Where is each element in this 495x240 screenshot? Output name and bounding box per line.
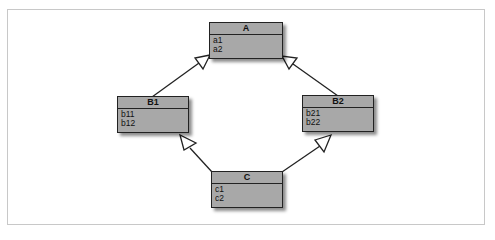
class-attributes: b11 b12 bbox=[118, 109, 188, 129]
class-b2[interactable]: B2 b21 b22 bbox=[302, 95, 374, 132]
edge-c-to-b2 bbox=[282, 146, 320, 172]
edge-c-to-b1 bbox=[190, 148, 212, 172]
class-a[interactable]: A a1 a2 bbox=[209, 22, 283, 59]
class-attributes: b21 b22 bbox=[303, 108, 373, 128]
class-attributes: c1 c2 bbox=[212, 184, 282, 204]
class-name: B1 bbox=[118, 97, 188, 109]
attribute: a1 bbox=[213, 36, 279, 45]
class-name: C bbox=[212, 172, 282, 184]
attribute: c2 bbox=[215, 194, 279, 203]
arrowhead-c-to-b2 bbox=[315, 135, 331, 152]
attribute: b12 bbox=[121, 119, 185, 128]
attribute: b22 bbox=[306, 118, 370, 127]
class-b1[interactable]: B1 b11 b12 bbox=[117, 96, 189, 133]
attribute: a2 bbox=[213, 45, 279, 54]
arrowhead-c-to-b1 bbox=[180, 135, 196, 150]
class-c[interactable]: C c1 c2 bbox=[211, 171, 283, 208]
edge-b1-to-a bbox=[152, 63, 199, 97]
edge-b2-to-a bbox=[293, 64, 338, 96]
attribute: c1 bbox=[215, 185, 279, 194]
arrowhead-b2-to-a bbox=[282, 56, 297, 69]
class-attributes: a1 a2 bbox=[210, 35, 282, 55]
class-name: B2 bbox=[303, 96, 373, 108]
class-name: A bbox=[210, 23, 282, 35]
arrowhead-b1-to-a bbox=[195, 55, 210, 69]
